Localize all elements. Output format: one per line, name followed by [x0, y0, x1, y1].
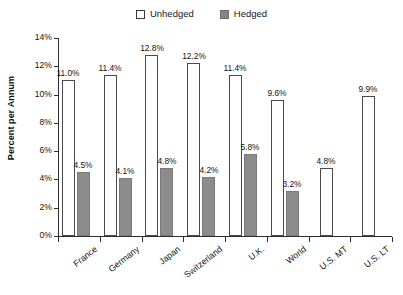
- bar-unhedged: [362, 96, 375, 236]
- y-axis-tick: [54, 38, 59, 39]
- bar-unhedged: [229, 75, 242, 236]
- x-axis-tick: [58, 237, 59, 242]
- bar-hedged: [119, 178, 132, 236]
- bar-unhedged: [104, 75, 117, 236]
- bar-value-label: 5.8%: [232, 143, 268, 152]
- y-axis-title: Percent per Annum: [3, 0, 19, 236]
- bar-hedged: [77, 172, 90, 236]
- x-axis-tick: [142, 237, 143, 242]
- y-axis-tick: [54, 151, 59, 152]
- bar-unhedged: [271, 100, 284, 236]
- y-axis-title-text: Percent per Annum: [6, 76, 16, 160]
- bar-value-label: 4.5%: [65, 161, 101, 170]
- chart-legend: Unhedged Hedged: [0, 9, 403, 19]
- bar-value-label: 11.4%: [92, 64, 128, 73]
- x-axis-tick: [183, 237, 184, 242]
- bar-unhedged: [62, 80, 75, 236]
- bar-hedged: [286, 191, 299, 236]
- bar-value-label: 11.0%: [50, 69, 86, 78]
- bar-value-label: 12.2%: [176, 52, 212, 61]
- y-axis-tick-label: 2%: [40, 203, 52, 212]
- bar-value-label: 3.2%: [274, 180, 310, 189]
- bar-unhedged: [320, 168, 333, 236]
- y-axis-tick: [54, 66, 59, 67]
- filled-square-swatch-icon: [220, 10, 229, 19]
- legend-entry-unhedged: Unhedged: [136, 9, 194, 19]
- bar-hedged: [160, 168, 173, 236]
- bar-chart-figure: Unhedged Hedged Percent per Annum 0%2%4%…: [0, 0, 403, 295]
- bar-value-label: 9.9%: [350, 85, 386, 94]
- x-axis-tick: [267, 237, 268, 242]
- bar-value-label: 9.6%: [259, 89, 295, 98]
- x-axis-tick: [392, 237, 393, 242]
- bar-value-label: 11.4%: [217, 64, 253, 73]
- legend-label-hedged: Hedged: [234, 9, 267, 19]
- bar-hedged: [202, 177, 215, 236]
- legend-entry-hedged: Hedged: [220, 9, 267, 19]
- bar-value-label: 4.1%: [107, 167, 143, 176]
- legend-label-unhedged: Unhedged: [150, 9, 194, 19]
- bar-value-label: 4.8%: [149, 157, 185, 166]
- y-axis-tick-label: 6%: [40, 146, 52, 155]
- y-axis-tick: [54, 208, 59, 209]
- x-axis-tick: [309, 237, 310, 242]
- y-axis-tick-label: 0%: [40, 231, 52, 240]
- bar-value-label: 12.8%: [134, 44, 170, 53]
- y-axis-tick-label: 10%: [35, 90, 52, 99]
- y-axis-tick: [54, 179, 59, 180]
- bar-unhedged: [187, 63, 200, 236]
- bar-hedged: [244, 154, 257, 236]
- x-axis-tick: [225, 237, 226, 242]
- x-axis-tick: [100, 237, 101, 242]
- x-axis-tick: [350, 237, 351, 242]
- bar-unhedged: [145, 55, 158, 236]
- bar-value-label: 4.8%: [308, 157, 344, 166]
- y-axis-tick-label: 8%: [40, 118, 52, 127]
- y-axis-tick-label: 4%: [40, 174, 52, 183]
- y-axis-tick: [54, 95, 59, 96]
- bar-value-label: 4.2%: [191, 166, 227, 175]
- open-square-swatch-icon: [136, 10, 145, 19]
- y-axis-tick-label: 14%: [35, 33, 52, 42]
- y-axis-tick: [54, 123, 59, 124]
